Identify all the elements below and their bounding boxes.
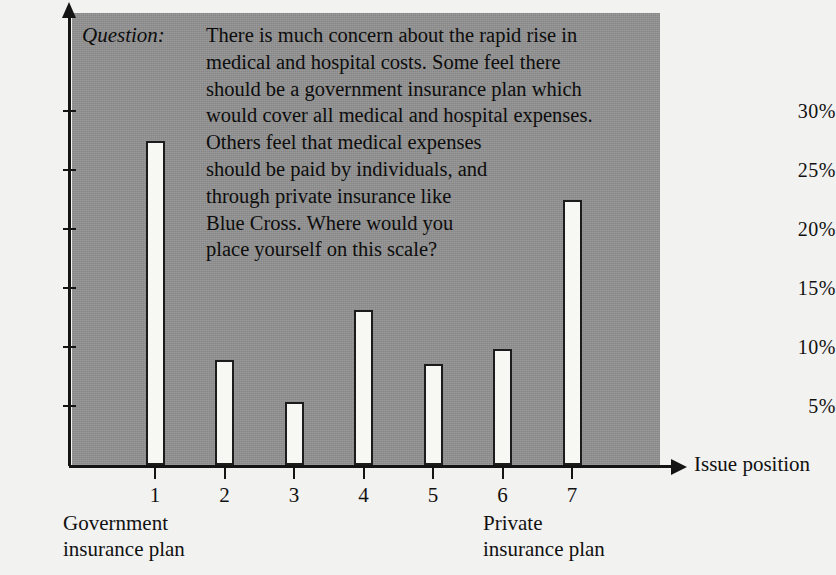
x-axis-arrowhead — [671, 459, 687, 475]
x-axis-tick-label: 2 — [205, 483, 245, 508]
bar-2 — [215, 360, 234, 465]
x-axis-tick — [571, 466, 573, 479]
question-block: Question: There is much concern about th… — [82, 22, 602, 263]
y-axis-tick-label: 5% — [774, 395, 836, 418]
y-axis-tick-label: 30% — [774, 100, 836, 123]
bar-5 — [424, 364, 443, 465]
x-axis-tick — [363, 466, 365, 479]
bar-3 — [285, 402, 304, 465]
x-axis-tick — [502, 466, 504, 479]
y-axis-tick-label: 25% — [774, 159, 836, 182]
x-axis-tick-label: 1 — [135, 483, 175, 508]
y-axis-line — [68, 14, 71, 466]
y-axis-tick-label: 10% — [774, 336, 836, 359]
bar-4 — [354, 310, 373, 465]
x-axis-tick — [293, 466, 295, 479]
survey-bar-chart-figure: 5%10%15%20%25%30% 1234567 Question: Ther… — [0, 0, 836, 575]
x-axis-tick — [154, 466, 156, 479]
question-label: Question: — [82, 22, 179, 49]
y-axis-tick-label: 20% — [774, 218, 836, 241]
y-axis-tick — [63, 110, 76, 112]
y-axis-arrowhead — [62, 2, 76, 18]
x-axis-tick — [224, 466, 226, 479]
y-axis-tick — [63, 287, 76, 289]
x-axis-title: Issue position — [694, 452, 810, 477]
x-axis-tick-label: 6 — [483, 483, 523, 508]
y-axis-tick-label: 15% — [774, 277, 836, 300]
bar-6 — [493, 349, 512, 465]
x-axis-tick-label: 3 — [274, 483, 314, 508]
x-axis-line — [69, 465, 673, 468]
question-text: There is much concern about the rapid ri… — [206, 22, 602, 263]
scale-caption-right: Private insurance plan — [483, 510, 605, 562]
y-axis-tick — [63, 405, 76, 407]
scale-caption-left: Government insurance plan — [63, 510, 185, 562]
x-axis-tick — [432, 466, 434, 479]
x-axis-tick-label: 7 — [552, 483, 592, 508]
y-axis-tick — [63, 346, 76, 348]
x-axis-tick-label: 4 — [344, 483, 384, 508]
x-axis-tick-label: 5 — [413, 483, 453, 508]
y-axis-tick — [63, 169, 76, 171]
y-axis-tick — [63, 228, 76, 230]
